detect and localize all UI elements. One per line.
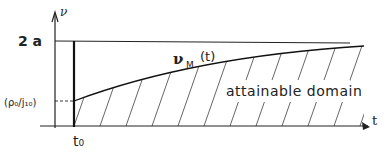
upper-bound-label: 2 a: [18, 33, 42, 49]
svg-text:ν: ν: [173, 50, 183, 68]
svg-text:(t): (t): [200, 49, 215, 64]
svg-text:M: M: [186, 60, 194, 70]
x-axis-arrow-icon: [362, 122, 370, 130]
region-label: attainable domain: [226, 83, 362, 99]
x-axis-label: t: [372, 113, 378, 128]
time-label: t₀: [73, 133, 84, 149]
attainable-domain-diagram: ν t 2 a (ρ₀/j₁₀) t₀ ν M (t) attainable d…: [0, 0, 390, 155]
initial-value-label: (ρ₀/j₁₀): [4, 97, 36, 108]
upper-bound-line: [55, 41, 350, 43]
y-axis-label: ν: [60, 5, 67, 19]
